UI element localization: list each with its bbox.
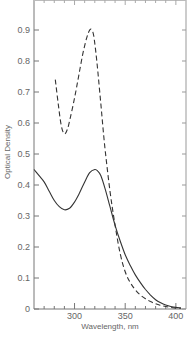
y-tick-label: 0.6: [17, 118, 30, 128]
y-tick-label: 0.3: [17, 211, 30, 221]
optical-density-chart: 00.10.20.30.40.50.60.70.80.9 300350400 W…: [0, 0, 194, 339]
x-axis-ticks: 300350400: [44, 0, 183, 321]
x-axis-title: Wavelength, nm: [81, 322, 139, 331]
dashed-curve: [55, 29, 181, 308]
y-axis-ticks: 00.10.20.30.40.50.60.70.80.9: [17, 25, 186, 314]
solid-curve: [34, 169, 181, 307]
y-axis-title: Optical Density: [3, 125, 12, 179]
y-tick-label: 0.4: [17, 180, 30, 190]
x-tick-label: 400: [168, 311, 183, 321]
y-tick-label: 0.9: [17, 25, 30, 35]
y-tick-label: 0: [25, 304, 30, 314]
plot-frame: [34, 0, 186, 309]
x-tick-label: 300: [67, 311, 82, 321]
data-series: [34, 29, 181, 308]
y-tick-label: 0.1: [17, 273, 30, 283]
y-tick-label: 0.8: [17, 56, 30, 66]
y-tick-label: 0.2: [17, 242, 30, 252]
x-tick-label: 350: [118, 311, 133, 321]
y-tick-label: 0.7: [17, 87, 30, 97]
y-tick-label: 0.5: [17, 149, 30, 159]
